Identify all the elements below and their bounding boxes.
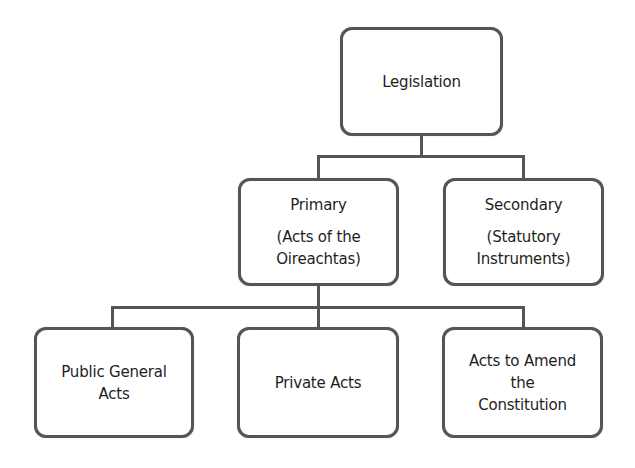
node-secondary-title: Secondary [485,194,563,216]
node-legislation-label: Legislation [382,71,461,93]
node-secondary: Secondary (Statutory Instruments) [443,178,604,286]
node-private-acts-line-1: Private Acts [275,372,362,394]
node-primary-title: Primary [290,194,347,216]
node-primary: Primary (Acts of the Oireachtas) [238,178,399,286]
node-secondary-line-1: (Statutory [487,226,561,248]
connector-level2-bar [317,155,525,158]
node-public-general-acts-line-2: Acts [98,383,129,405]
node-acts-to-amend-constitution: Acts to Amend the Constitution [442,327,603,438]
node-acts-to-amend-line-1: Acts to Amend [469,350,576,372]
connector-to-primary [317,155,320,179]
node-legislation: Legislation [340,27,503,136]
node-public-general-acts-line-1: Public General [61,361,166,383]
node-acts-to-amend-line-3: Constitution [478,394,567,416]
node-private-acts: Private Acts [237,327,399,438]
connector-to-acts-to-amend [522,306,525,329]
connector-to-public-general-acts [111,306,114,329]
node-primary-line-1: (Acts of the [276,226,360,248]
connector-to-secondary [522,155,525,179]
node-public-general-acts: Public General Acts [34,327,194,438]
node-primary-line-2: Oireachtas) [276,248,361,270]
node-acts-to-amend-line-2: the [510,372,534,394]
connector-level3-bar [111,306,525,309]
node-secondary-line-2: Instruments) [477,248,571,270]
